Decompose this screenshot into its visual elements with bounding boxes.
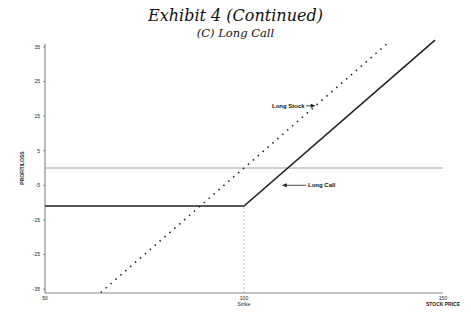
x-tick-label: 50 — [42, 295, 48, 301]
y-tick-label: 35 — [34, 44, 40, 50]
y-tick-label: -15 — [33, 217, 40, 223]
long-stock-annotation: Long Stock — [272, 103, 305, 109]
long-call-line — [45, 40, 435, 206]
y-tick-label: -35 — [33, 286, 40, 292]
long-stock-arrowhead — [311, 104, 316, 108]
y-tick-label: -5 — [36, 182, 41, 188]
y-tick-label: 5 — [37, 148, 40, 154]
y-tick-label: 15 — [34, 113, 40, 119]
x-tick-sublabel: Strike — [238, 301, 251, 307]
y-tick-label: 25 — [34, 78, 40, 84]
long-call-arrowhead — [282, 183, 287, 187]
payoff-chart: 3525155-5-15-25-3550100Strike150STOCK PR… — [0, 0, 471, 312]
x-axis-label: STOCK PRICE — [426, 301, 461, 307]
y-axis-label: PROFIT/LOSS — [19, 151, 25, 185]
y-tick-label: -25 — [33, 251, 40, 257]
long-call-annotation: Long Call — [308, 182, 336, 188]
